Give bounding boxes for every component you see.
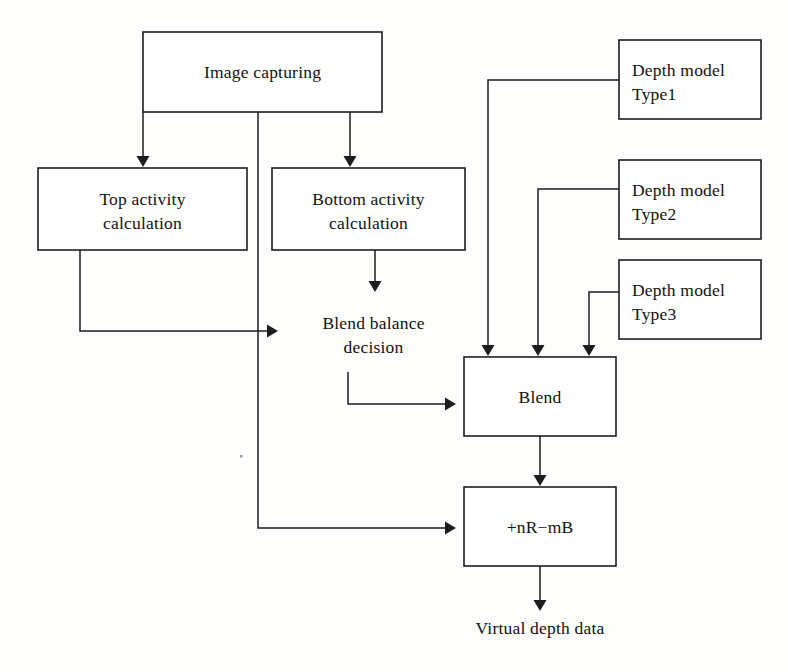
- node-box-depth-model-type2[interactable]: [619, 160, 761, 239]
- node-depth-model-type2[interactable]: Depth model Type2: [619, 160, 761, 239]
- arrowhead-type2-to-blend: [532, 345, 545, 356]
- node-blend[interactable]: Blend: [464, 357, 616, 436]
- flowchart-svg: Image capturing Top activity calculation…: [0, 0, 788, 672]
- arrowhead-type3-to-blend: [583, 345, 596, 356]
- edge-type1-to-blend: [488, 80, 619, 350]
- edge-type3-to-blend: [589, 292, 619, 350]
- output-label-virtual-depth-data: Virtual depth data: [476, 618, 605, 638]
- node-label-bottom-activity-line2: calculation: [329, 213, 408, 233]
- node-label-depth-model-type3-line2: Type3: [632, 304, 677, 324]
- node-label-top-activity-line2: calculation: [103, 213, 182, 233]
- node-label-depth-model-type3-line1: Depth model: [632, 280, 725, 300]
- node-label-image-capturing-line1: Image capturing: [204, 62, 321, 82]
- node-box-depth-model-type1[interactable]: [619, 40, 761, 119]
- node-label-depth-model-type2-line2: Type2: [632, 204, 677, 224]
- flowchart-canvas: Image capturing Top activity calculation…: [0, 0, 788, 672]
- arrowhead-capture-to-bottom: [344, 156, 357, 167]
- arrowhead-nrmb-to-output: [534, 600, 547, 611]
- arrowhead-bottom-to-blendbalance: [369, 281, 382, 292]
- node-depth-model-type1[interactable]: Depth model Type1: [619, 40, 761, 119]
- node-depth-model-type3[interactable]: Depth model Type3: [619, 260, 761, 339]
- edge-type2-to-blend: [538, 189, 619, 350]
- scan-speck: [240, 455, 243, 458]
- node-bottom-activity[interactable]: Bottom activity calculation: [272, 168, 465, 250]
- edge-top-to-blendbalance: [80, 250, 271, 331]
- node-label-depth-model-type2-line1: Depth model: [632, 180, 725, 200]
- arrowhead-capture-to-top: [137, 156, 150, 167]
- edge-blendbalance-to-blend: [348, 372, 449, 404]
- node-label-blend-balance-line2: decision: [344, 337, 404, 357]
- node-layer: Image capturing Top activity calculation…: [38, 32, 761, 638]
- node-box-bottom-activity[interactable]: [272, 168, 465, 250]
- node-top-activity[interactable]: Top activity calculation: [38, 168, 247, 250]
- node-label-bottom-activity-line1: Bottom activity: [312, 189, 424, 209]
- arrowhead-type1-to-blend: [482, 345, 495, 356]
- node-label-top-activity-line1: Top activity: [99, 189, 185, 209]
- node-label-blend-line1: Blend: [519, 387, 562, 407]
- node-label-nr-mb-line1: +nR−mB: [507, 517, 574, 537]
- node-label-depth-model-type1-line2: Type1: [632, 84, 677, 104]
- arrowhead-blendbalance-to-blend: [445, 398, 456, 411]
- node-label-blend-balance-line1: Blend balance: [322, 313, 424, 333]
- arrowhead-top-to-blendbalance: [267, 325, 278, 338]
- arrowhead-blend-to-nrmb: [534, 475, 547, 486]
- node-box-depth-model-type3[interactable]: [619, 260, 761, 339]
- arrowhead-capture-to-nrmb: [445, 522, 456, 535]
- node-blend-balance-decision[interactable]: Blend balance decision: [322, 313, 424, 357]
- node-nr-mb[interactable]: +nR−mB: [464, 487, 616, 566]
- node-box-top-activity[interactable]: [38, 168, 247, 250]
- node-label-depth-model-type1-line1: Depth model: [632, 60, 725, 80]
- node-image-capturing[interactable]: Image capturing: [143, 32, 382, 112]
